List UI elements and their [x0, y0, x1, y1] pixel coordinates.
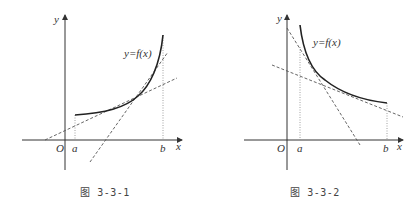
curve-label: y=f(x): [312, 36, 341, 49]
figure-3-3-2: y=f(x) y x O a b 图 3-3-2: [210, 0, 420, 210]
origin-label: O: [56, 142, 64, 154]
b-label: b: [383, 142, 389, 154]
figure-caption: 图 3-3-2: [210, 184, 420, 199]
y-axis-label: y: [53, 13, 59, 25]
x-axis-label: x: [396, 140, 402, 152]
figure-3-3-1: y=f(x) y x O a b 图 3-3-1: [0, 0, 210, 210]
x-axis-label: x: [175, 140, 181, 152]
curve-label: y=f(x): [123, 47, 152, 60]
a-label: a: [297, 142, 303, 154]
y-axis-label: y: [276, 12, 282, 24]
b-label: b: [160, 142, 166, 154]
figure-3-3-2-plot: y=f(x) y x O a b: [210, 0, 420, 210]
a-label: a: [72, 142, 78, 154]
origin-label: O: [277, 142, 285, 154]
figure-3-3-1-plot: y=f(x) y x O a b: [0, 0, 210, 210]
figure-caption: 图 3-3-1: [0, 184, 210, 199]
